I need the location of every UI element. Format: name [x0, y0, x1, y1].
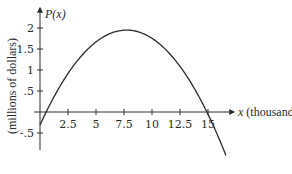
x-tick-label: 2.5	[59, 118, 77, 131]
y-tick-label: .5	[24, 85, 35, 98]
x-tick-label: 10	[145, 118, 159, 131]
y-tick-label: -.5	[20, 127, 34, 140]
y-tick-label: 1.5	[17, 43, 35, 56]
x-tick-label: 12.5	[168, 118, 193, 131]
profit-curve	[40, 30, 226, 155]
x-tick-label: 5	[93, 118, 100, 131]
profit-chart: -.5.511.52 2.557.51012.515 P(x) x (thous…	[0, 0, 292, 174]
x-tick-label: 7.5	[115, 118, 133, 131]
y-tick-label: 2	[27, 22, 34, 35]
x-axis-title: x (thousands)	[237, 105, 292, 119]
y-ticks: -.5.511.52	[17, 22, 44, 140]
y-tick-label: 1	[27, 64, 34, 77]
y-axis-label: (millions of dollars)	[5, 38, 19, 134]
y-axis-title: P(x)	[44, 7, 66, 21]
